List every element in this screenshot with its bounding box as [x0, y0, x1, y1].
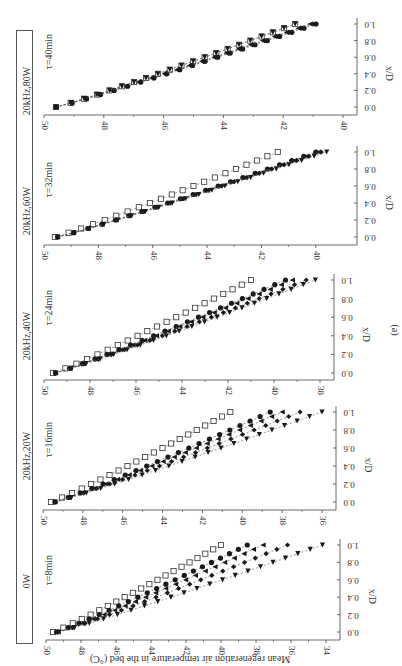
triangle-down-marker	[276, 291, 281, 296]
temperature-axis-title: Mean regeneration air temperature in the…	[90, 653, 290, 665]
temperature-tick-label: 38	[278, 516, 288, 526]
xd-tick-label: 1.0	[341, 276, 353, 286]
filled-diamond-marker	[297, 409, 302, 414]
temperature-tick-label: 42	[198, 516, 208, 525]
open-square-marker	[147, 200, 152, 205]
temperature-tick-label: 42	[224, 386, 234, 395]
open-square-marker	[191, 183, 196, 188]
temperature-tick-label: 46	[149, 251, 159, 261]
panel-16min: 50484644424038360.00.20.40.60.81.0x/Dτ=1…	[39, 406, 374, 526]
triangle-down-marker	[207, 582, 212, 587]
filled-diamond-marker	[231, 564, 236, 569]
temperature-tick-label: 48	[77, 646, 87, 656]
triangle-left-marker	[149, 463, 154, 468]
panel-title: τ=32min	[43, 162, 54, 197]
triangle-down-marker	[283, 555, 288, 560]
open-square-marker	[115, 343, 120, 348]
triangle-down-marker	[301, 282, 306, 287]
filled-circle-marker	[197, 441, 202, 446]
temperature-tick-label: 42	[257, 251, 267, 260]
triangle-down-marker	[320, 542, 325, 547]
filled-diamond-marker	[280, 287, 285, 292]
triangle-left-marker	[258, 418, 263, 423]
open-square-marker	[151, 450, 156, 455]
filled-diamond-marker	[209, 573, 214, 578]
open-square-marker	[69, 490, 74, 495]
open-square-marker	[89, 481, 94, 486]
temperature-tick-label: 44	[219, 121, 229, 131]
triangle-down-marker	[126, 477, 131, 482]
filled-diamond-marker	[294, 158, 299, 163]
xd-tick-label: 0.6	[364, 53, 376, 63]
xd-axis-label: x/D	[363, 458, 374, 473]
xd-tick-label: 0.0	[347, 628, 359, 638]
temperature-tick-label: 48	[94, 251, 104, 261]
triangle-down-marker	[269, 427, 274, 432]
panel-8min: 5048464442403836340.00.20.40.60.81.0x/Dτ…	[42, 539, 378, 656]
open-square-marker	[136, 205, 141, 210]
triangle-down-marker	[270, 560, 275, 565]
xd-tick-label: 0.8	[341, 295, 353, 305]
filled-diamond-marker	[285, 542, 290, 547]
triangle-down-marker	[179, 459, 184, 464]
triangle-left-marker	[183, 450, 188, 455]
open-square-marker	[194, 427, 199, 432]
triangle-left-marker	[194, 445, 199, 450]
xd-tick-label: 0.2	[347, 611, 358, 621]
xd-tick-label: 1.0	[364, 148, 376, 158]
triangle-down-marker	[101, 616, 106, 621]
triangle-down-marker	[245, 569, 250, 574]
open-square-marker	[186, 432, 191, 437]
filled-circle-marker	[165, 454, 170, 459]
triangle-down-marker	[128, 608, 133, 613]
panel-title: τ=24min	[43, 290, 54, 325]
filled-diamond-marker	[120, 477, 125, 482]
open-square-marker	[116, 468, 121, 473]
open-square-marker	[169, 441, 174, 446]
triangle-left-marker	[234, 301, 239, 306]
triangle-left-marker	[127, 472, 132, 477]
open-square-marker	[125, 338, 130, 343]
temperature-tick-label: 40	[238, 516, 248, 526]
open-square-marker	[239, 282, 244, 287]
triangle-down-marker	[115, 612, 120, 617]
open-square-marker	[265, 154, 270, 159]
temperature-tick-label: 34	[322, 646, 332, 656]
figure: 5048464442400.00.20.40.60.81.0x/Dτ=40min…	[0, 0, 402, 666]
xd-tick-label: 0.0	[364, 233, 376, 243]
open-square-marker	[95, 352, 100, 357]
xd-tick-label: 0.8	[347, 558, 359, 568]
temperature-tick-label: 48	[79, 516, 89, 526]
filled-diamond-marker	[205, 445, 210, 450]
open-square-marker	[203, 551, 208, 556]
filled-diamond-marker	[252, 427, 257, 432]
triangle-down-marker	[227, 310, 232, 315]
triangle-down-marker	[193, 454, 198, 459]
xd-tick-label: 0.8	[364, 165, 376, 175]
filled-diamond-marker	[176, 586, 181, 591]
triangle-left-marker	[260, 542, 265, 547]
temperature-tick-label: 50	[40, 386, 50, 396]
triangle-left-marker	[223, 305, 228, 310]
panel-title: τ=8min	[43, 555, 54, 585]
filled-circle-marker	[155, 459, 160, 464]
triangle-left-marker	[212, 310, 217, 315]
triangle-left-marker	[143, 595, 148, 600]
triangle-left-marker	[133, 599, 138, 604]
triangle-down-marker	[153, 468, 158, 473]
open-square-marker	[254, 158, 259, 163]
filled-circle-marker	[229, 301, 234, 306]
triangle-down-marker	[307, 414, 312, 419]
xd-tick-label: 0.8	[343, 426, 355, 436]
xd-tick-label: 0.6	[341, 313, 353, 323]
xd-tick-label: 0.2	[343, 480, 354, 490]
open-square-marker	[218, 542, 223, 547]
filled-diamond-marker	[274, 547, 279, 552]
triangle-left-marker	[251, 547, 256, 552]
panel-title: τ=40min	[43, 34, 54, 69]
xd-tick-label: 0.6	[347, 576, 359, 586]
filled-circle-marker	[182, 573, 187, 578]
filled-diamond-marker	[263, 423, 268, 428]
open-square-marker	[134, 459, 139, 464]
filled-diamond-marker	[264, 551, 269, 556]
